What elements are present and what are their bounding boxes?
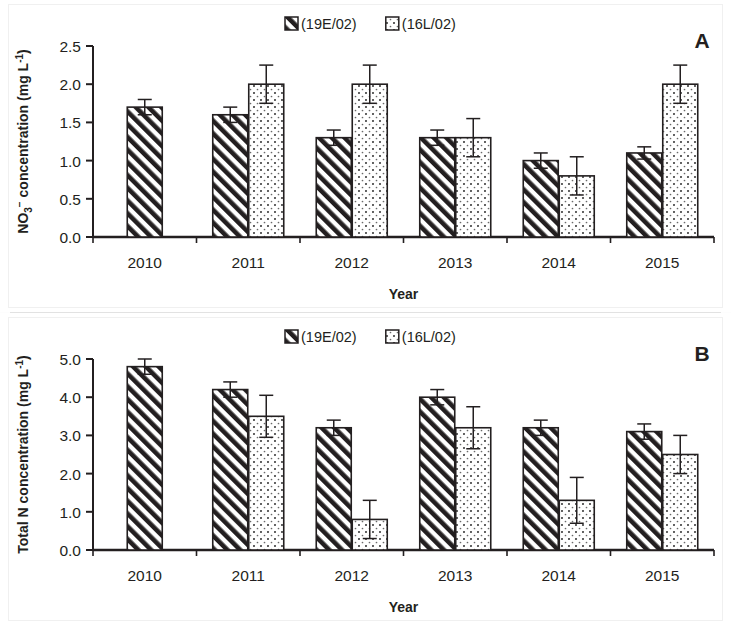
bar — [420, 397, 455, 550]
legend-label: (16L/02) — [402, 329, 456, 345]
bar — [523, 428, 558, 550]
legend-item[interactable]: (19E/02) — [285, 16, 357, 32]
y-tick-label: 5.0 — [59, 351, 81, 368]
y-axis-title-part: NO — [15, 213, 31, 234]
y-tick-label: 0.0 — [59, 229, 81, 246]
x-tick-label: 2015 — [645, 567, 679, 584]
y-tick-label: 0.5 — [59, 191, 81, 208]
legend-item[interactable]: (16L/02) — [386, 329, 456, 345]
legend-swatch-dotted-icon — [386, 17, 399, 30]
bar — [213, 390, 248, 550]
y-tick-label: 0.0 — [59, 542, 81, 559]
bar — [627, 432, 662, 550]
x-tick-label: 2014 — [542, 254, 577, 271]
bar — [420, 138, 455, 237]
y-axis-title-part: Total N concentration (mg L — [15, 368, 31, 553]
legend-label: (19E/02) — [301, 16, 357, 32]
x-tick-label: 2010 — [128, 567, 163, 584]
bar — [127, 367, 162, 550]
bar — [316, 428, 351, 550]
bar — [249, 84, 284, 237]
bars-group — [127, 359, 698, 550]
y-axis: 0.00.51.01.52.02.5 — [59, 38, 93, 246]
panel-letter: A — [694, 29, 709, 52]
legend-item[interactable]: (19E/02) — [285, 329, 357, 345]
panel-a: 0.00.51.01.52.02.52010201120122013201420… — [0, 0, 731, 312]
legend-label: (19E/02) — [301, 329, 357, 345]
x-axis-title: Year — [389, 599, 419, 615]
legend-swatch-hatch-icon — [285, 330, 298, 343]
x-axis-title: Year — [389, 286, 419, 302]
legend-label: (16L/02) — [402, 16, 456, 32]
y-tick-label: 3.0 — [59, 427, 81, 444]
y-tick-label: 1.5 — [59, 114, 81, 131]
x-tick-label: 2012 — [335, 567, 369, 584]
figure-container: 0.00.51.01.52.02.52010201120122013201420… — [0, 0, 731, 625]
x-tick-label: 2014 — [542, 567, 577, 584]
y-tick-label: 1.0 — [59, 504, 81, 521]
legend-swatch-dotted-icon — [386, 330, 399, 343]
legend: (19E/02)(16L/02) — [285, 16, 456, 32]
bar — [627, 153, 662, 237]
y-tick-label: 4.0 — [59, 389, 81, 406]
legend: (19E/02)(16L/02) — [285, 329, 456, 345]
panel-a-chart: 0.00.51.01.52.02.52010201120122013201420… — [0, 0, 731, 312]
x-axis — [93, 550, 714, 556]
y-axis: 0.01.02.03.04.05.0 — [59, 351, 93, 559]
x-tick-label: 2012 — [335, 254, 369, 271]
x-tick-label: 2013 — [438, 567, 472, 584]
x-tick-label: 2011 — [232, 254, 265, 271]
y-axis-title-part: concentration (mg L — [15, 62, 31, 201]
bar — [523, 161, 558, 237]
y-tick-label: 1.0 — [59, 153, 81, 170]
x-tick-label: 2011 — [232, 567, 265, 584]
bar — [127, 107, 162, 237]
bar — [663, 84, 698, 237]
y-axis-title: NO3− concentration (mg L-1) — [14, 49, 34, 233]
y-tick-label: 2.0 — [59, 466, 81, 483]
bar — [213, 115, 248, 237]
bar — [352, 84, 387, 237]
y-tick-label: 2.5 — [59, 38, 81, 55]
y-axis-title-part: ) — [15, 49, 31, 54]
panel-b: 0.01.02.03.04.05.02010201120122013201420… — [0, 313, 731, 625]
x-tick-labels: 201020112012201320142015 — [128, 254, 680, 271]
y-axis-title-part: ) — [15, 355, 31, 360]
legend-swatch-hatch-icon — [285, 17, 298, 30]
x-tick-labels: 201020112012201320142015 — [128, 567, 680, 584]
legend-item[interactable]: (16L/02) — [386, 16, 456, 32]
bars-group — [127, 65, 698, 237]
y-tick-label: 2.0 — [59, 76, 81, 93]
x-tick-label: 2015 — [645, 254, 679, 271]
bar — [316, 138, 351, 237]
x-tick-label: 2010 — [128, 254, 163, 271]
panel-letter: B — [694, 342, 709, 365]
panel-b-chart: 0.01.02.03.04.05.02010201120122013201420… — [0, 313, 731, 625]
x-tick-label: 2013 — [438, 254, 472, 271]
x-axis — [93, 237, 714, 243]
y-axis-title: Total N concentration (mg L-1) — [14, 355, 31, 553]
